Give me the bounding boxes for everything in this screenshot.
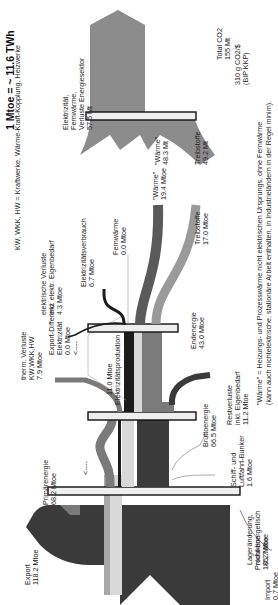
therm-verluste-value: 7.9 Mtoe: [35, 352, 44, 380]
co2-treibstoffe-value: 49.2 Mt: [201, 141, 210, 165]
primary-arrow: <----: [81, 461, 90, 475]
export-value: 118.2 Mtoe: [31, 550, 40, 585]
primary-light-stripe: [122, 420, 134, 487]
bruttoenergie-bar: [88, 412, 196, 420]
co2-intensity-2: (BIP KKP): [241, 52, 250, 85]
co2-total-flow: [90, 10, 145, 112]
el-verluste-value: 4.3 Mtoe: [55, 287, 64, 315]
abbrev-note: KW, WKK, HW = Kraftwerke, Wärme-Kraft-Ko…: [13, 45, 22, 250]
co2-waerme-value: 48.3 Mt: [161, 141, 170, 165]
primary-main-flow: [137, 420, 169, 487]
footnote-line-2: (kann auch nichtelektrische, stationäre …: [264, 101, 273, 405]
export-diff-arrow: <----: [71, 341, 80, 355]
primaerenergie-bar: [48, 487, 240, 495]
elektrizitaetsproduktion-label: Elektrizitätsproduktion: [113, 335, 122, 405]
endenergie-value: 43.0 Mtoe: [197, 317, 206, 349]
waerme-value: 19.4 Mtoe: [159, 168, 168, 200]
elektrizitaetsverbrauch-value: 6.7 Mtoe: [87, 259, 96, 287]
brutto-light-flow: [134, 332, 142, 412]
co2-elektrizitaet-value: 57.5 Mt: [85, 106, 94, 130]
treibstoffe-value: 17.0 Mtoe: [201, 213, 210, 245]
restverluste-flow: [172, 375, 210, 405]
co2-total-bar: [86, 112, 196, 120]
lageraenderung-value: 0.2 Mtoe: [261, 537, 270, 565]
fernwaerme-value: 0.0 Mtoe: [119, 227, 128, 255]
bunker-value: 1.6 Mtoe: [245, 459, 254, 487]
production-flow: [120, 505, 230, 605]
co2-total-value: 155 Mt: [223, 38, 232, 60]
restverluste-value: 11.2 Mtoe: [241, 394, 250, 425]
brutto-medium-flow: [142, 332, 162, 412]
import-value: 0.7 Mtoe: [271, 572, 278, 600]
primaerenergie-value: 68.2 Mtoe: [49, 473, 58, 505]
bruttoenergie-value: 66.5 Mtoe: [209, 415, 218, 447]
sankey-energy-diagram: 1 Mtoe = ~ 11.6 TWh Produktion 185.7 Mto…: [0, 0, 278, 605]
primary-wavy-flow: [100, 420, 112, 487]
elektrizitaetsverbrauch-flow: [104, 289, 124, 324]
footnote-line-1: "Wärme" = Heizungs- und Prozesswärme nic…: [255, 122, 264, 405]
lageraenderung-line: [172, 475, 215, 480]
primary-dark-line: [118, 420, 121, 487]
